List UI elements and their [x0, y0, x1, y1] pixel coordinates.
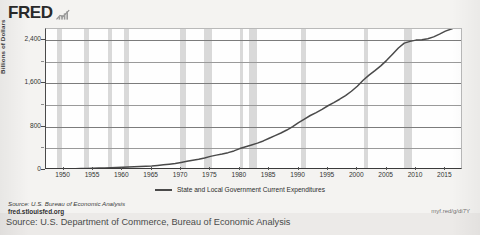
x-tick-mark — [209, 167, 210, 170]
x-tick-mark — [386, 167, 387, 170]
x-tick-mark — [121, 167, 122, 170]
y-tick-mark-minor — [41, 104, 44, 105]
fred-chart-screenshot: FRED Billions of Dollars 08001,6002,400 … — [0, 0, 480, 235]
x-tick-mark — [327, 167, 328, 170]
legend-color-swatch — [155, 189, 172, 191]
chart-area: Billions of Dollars 08001,6002,400 19501… — [0, 26, 480, 172]
series-line — [46, 29, 461, 168]
y-tick-label: 1,600 — [3, 78, 41, 85]
x-tick-label: 2005 — [378, 171, 393, 178]
x-tick-label: 2015 — [437, 171, 452, 178]
x-tick-label: 1955 — [85, 171, 100, 178]
x-tick-mark — [151, 167, 152, 170]
plot-frame — [45, 28, 462, 169]
x-tick-mark — [239, 167, 240, 170]
y-tick-label: 0 — [3, 165, 41, 172]
plot-inner — [46, 29, 461, 168]
y-tick-mark — [41, 169, 45, 170]
fred-logo[interactable]: FRED — [8, 4, 70, 21]
source-note: Source: U.S. Bureau of Economic Analysis — [8, 200, 125, 207]
figure-caption: Source: U.S. Department of Commerce, Bur… — [6, 217, 290, 227]
x-tick-mark — [298, 167, 299, 170]
x-tick-label: 1970 — [173, 171, 188, 178]
y-tick-label: 2,400 — [3, 35, 41, 42]
x-tick-mark — [415, 167, 416, 170]
x-tick-label: 1960 — [114, 171, 129, 178]
x-tick-label: 1980 — [231, 171, 246, 178]
chart-glyph-icon — [56, 9, 70, 20]
x-tick-label: 2010 — [408, 171, 423, 178]
x-tick-label: 1990 — [290, 171, 305, 178]
x-axis-ticks: 1950195519601965197019751980198519901995… — [45, 171, 462, 183]
x-tick-label: 1965 — [143, 171, 158, 178]
chart-legend: State and Local Government Current Expen… — [0, 186, 480, 193]
x-tick-mark — [92, 167, 93, 170]
x-tick-mark — [444, 167, 445, 170]
legend-label: State and Local Government Current Expen… — [177, 186, 325, 193]
y-tick-mark-minor — [41, 147, 44, 148]
x-tick-label: 1950 — [55, 171, 70, 178]
x-tick-mark — [268, 167, 269, 170]
y-tick-mark-minor — [41, 61, 44, 62]
x-tick-label: 1995 — [320, 171, 335, 178]
x-tick-mark — [356, 167, 357, 170]
y-tick-label: 800 — [3, 122, 41, 129]
y-axis-ticks: 08001,6002,400 — [0, 26, 41, 167]
short-url[interactable]: myf.red/g/di7Y — [431, 208, 470, 214]
x-tick-mark — [63, 167, 64, 170]
x-tick-mark — [180, 167, 181, 170]
x-tick-label: 2000 — [349, 171, 364, 178]
fred-logo-text: FRED — [8, 4, 53, 21]
x-tick-label: 1985 — [261, 171, 276, 178]
fred-url[interactable]: fred.stlouisfed.org — [8, 208, 64, 215]
x-tick-label: 1975 — [202, 171, 217, 178]
